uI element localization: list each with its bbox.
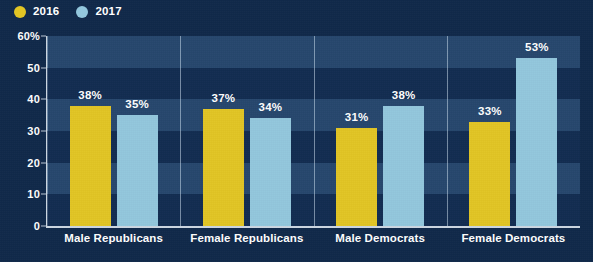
y-axis-tick-label: 30 bbox=[27, 125, 40, 137]
legend-item-2017: 2017 bbox=[76, 6, 121, 18]
bar-value-label: 31% bbox=[345, 111, 369, 123]
y-axis-tick-label: 50 bbox=[27, 62, 40, 74]
y-axis-tick-label: 60% bbox=[17, 30, 40, 42]
chart-legend: 2016 2017 bbox=[14, 6, 122, 18]
bar-chart-figure: 2016 2017 0102030405060% 38%35%37%34%31%… bbox=[0, 0, 593, 262]
y-axis-tick-labels: 0102030405060% bbox=[0, 36, 40, 226]
bar-2017-male-democrats bbox=[383, 106, 424, 226]
y-axis-tick-label: 10 bbox=[27, 188, 40, 200]
y-axis-tick-label: 20 bbox=[27, 157, 40, 169]
x-axis-line bbox=[46, 226, 580, 228]
bar-2016-female-democrats bbox=[469, 122, 510, 227]
group-separator-line bbox=[180, 36, 181, 226]
bar-value-label: 37% bbox=[212, 92, 236, 104]
plot-wrapper: 0102030405060% 38%35%37%34%31%38%33%53% … bbox=[0, 36, 593, 262]
legend-swatch-circle-2017 bbox=[76, 6, 88, 18]
bar-2017-female-democrats bbox=[516, 58, 557, 226]
x-axis-category-label: Male Democrats bbox=[335, 232, 425, 244]
group-separator-line bbox=[314, 36, 315, 226]
x-axis-category-labels: Male RepublicansFemale RepublicansMale D… bbox=[47, 232, 580, 258]
legend-label-2017: 2017 bbox=[95, 6, 121, 18]
y-axis-tick-label: 0 bbox=[34, 220, 40, 232]
bar-value-label: 53% bbox=[525, 41, 549, 53]
bar-2016-male-republicans bbox=[70, 106, 111, 226]
y-axis-tick-label: 40 bbox=[27, 93, 40, 105]
x-axis-category-label: Male Republicans bbox=[64, 232, 163, 244]
bar-2016-male-democrats bbox=[336, 128, 377, 226]
bar-value-label: 38% bbox=[78, 89, 102, 101]
bar-value-label: 33% bbox=[478, 105, 502, 117]
plot-area: 38%35%37%34%31%38%33%53% bbox=[47, 36, 580, 226]
group-separator-line bbox=[447, 36, 448, 226]
bar-2017-male-republicans bbox=[117, 115, 158, 226]
bar-value-label: 35% bbox=[125, 98, 149, 110]
x-axis-category-label: Female Democrats bbox=[461, 232, 565, 244]
legend-swatch-circle-2016 bbox=[14, 6, 26, 18]
bar-2016-female-republicans bbox=[203, 109, 244, 226]
x-axis-category-label: Female Republicans bbox=[190, 232, 303, 244]
bar-2017-female-republicans bbox=[250, 118, 291, 226]
bar-value-label: 38% bbox=[392, 89, 416, 101]
bar-value-label: 34% bbox=[259, 101, 283, 113]
legend-item-2016: 2016 bbox=[14, 6, 59, 18]
legend-label-2016: 2016 bbox=[33, 6, 59, 18]
